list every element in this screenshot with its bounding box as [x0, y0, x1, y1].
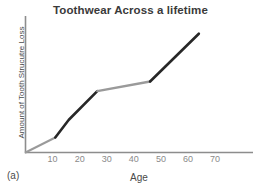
figure-caption: (a)	[7, 170, 19, 181]
x-tick-label-50: 50	[149, 154, 173, 164]
x-tick-label-20: 20	[68, 154, 92, 164]
y-axis-label: Amount of Tooth Strucutre Loss	[17, 13, 26, 153]
x-axis-label: Age	[25, 172, 253, 183]
line-segment-adult-plateau-wear	[97, 82, 150, 92]
x-tick-label-10: 10	[41, 154, 65, 164]
figure-panel: Toothwear Across a lifetime 102030405060…	[0, 0, 261, 192]
x-tick-label-70: 70	[203, 154, 227, 164]
line-segment-childhood-slow-wear	[26, 137, 56, 152]
x-tick-label-30: 30	[95, 154, 119, 164]
line-segment-adolescent-rapid-wear	[55, 91, 97, 137]
x-tick-label-60: 60	[176, 154, 200, 164]
x-tick-label-40: 40	[122, 154, 146, 164]
data-series-group	[26, 34, 199, 153]
line-segment-late-life-rapid-wear	[150, 34, 199, 82]
